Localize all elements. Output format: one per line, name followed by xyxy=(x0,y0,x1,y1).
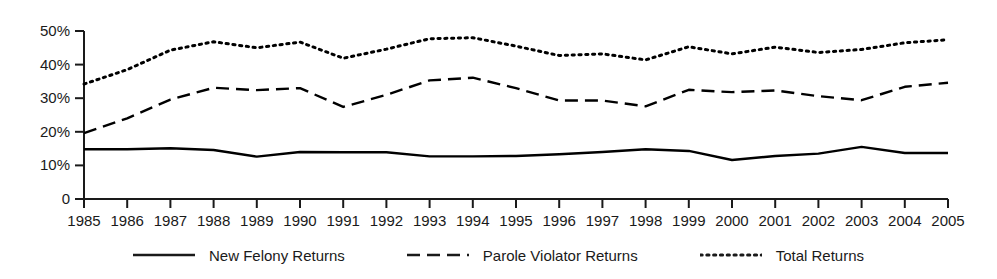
x-tick-label: 1991 xyxy=(321,213,365,228)
x-tick-label: 1985 xyxy=(62,213,106,228)
x-axis-ticks xyxy=(84,199,948,208)
chart-legend: New Felony ReturnsParole Violator Return… xyxy=(0,240,997,270)
x-tick-label: 1996 xyxy=(537,213,581,228)
x-tick-label: 2005 xyxy=(926,213,970,228)
x-tick-label: 1992 xyxy=(364,213,408,228)
x-tick-label: 1997 xyxy=(580,213,624,228)
series-line-parole-violator-returns xyxy=(84,78,948,133)
legend-item-new-felony-returns[interactable]: New Felony Returns xyxy=(133,247,345,264)
axes xyxy=(84,31,948,199)
x-tick-label: 1990 xyxy=(278,213,322,228)
x-tick-label: 1994 xyxy=(451,213,495,228)
legend-label: New Felony Returns xyxy=(209,247,345,264)
x-tick-label: 1998 xyxy=(624,213,668,228)
y-tick-label: 10% xyxy=(0,157,70,172)
y-tick-label: 0 xyxy=(0,191,70,206)
data-series-group xyxy=(84,38,948,160)
x-tick-label: 1999 xyxy=(667,213,711,228)
legend-swatch-dashed xyxy=(407,250,469,260)
x-tick-label: 1987 xyxy=(148,213,192,228)
legend-swatch-solid xyxy=(133,250,195,260)
legend-label: Total Returns xyxy=(776,247,864,264)
x-tick-label: 2001 xyxy=(753,213,797,228)
y-tick-label: 50% xyxy=(0,23,70,38)
x-tick-label: 1988 xyxy=(192,213,236,228)
legend-label: Parole Violator Returns xyxy=(483,247,638,264)
legend-swatch-dotted xyxy=(700,250,762,260)
x-tick-label: 1986 xyxy=(105,213,149,228)
legend-item-total-returns[interactable]: Total Returns xyxy=(700,247,864,264)
x-tick-label: 1993 xyxy=(408,213,452,228)
plot-area xyxy=(0,0,997,279)
line-chart: 010%20%30%40%50% 19851986198719881989199… xyxy=(0,0,997,279)
y-tick-label: 40% xyxy=(0,57,70,72)
y-tick-label: 20% xyxy=(0,124,70,139)
series-line-total-returns xyxy=(84,38,948,84)
x-tick-label: 2000 xyxy=(710,213,754,228)
x-tick-label: 2003 xyxy=(840,213,884,228)
x-tick-label: 1989 xyxy=(235,213,279,228)
x-tick-label: 2002 xyxy=(796,213,840,228)
series-line-new-felony-returns xyxy=(84,147,948,160)
x-tick-label: 1995 xyxy=(494,213,538,228)
y-tick-label: 30% xyxy=(0,90,70,105)
legend-item-parole-violator-returns[interactable]: Parole Violator Returns xyxy=(407,247,638,264)
y-axis-ticks xyxy=(75,31,84,199)
x-tick-label: 2004 xyxy=(883,213,927,228)
